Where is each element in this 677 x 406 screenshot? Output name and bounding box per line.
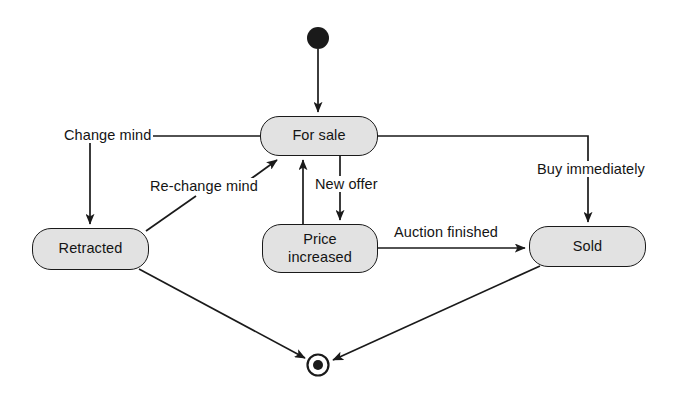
state-for-sale-label: For sale <box>292 127 345 145</box>
state-sold[interactable]: Sold <box>529 226 646 267</box>
transition-label-buy-immediately: Buy immediately <box>535 161 647 177</box>
state-retracted-label: Retracted <box>59 240 123 258</box>
state-price-increased[interactable]: Price increased <box>262 224 378 273</box>
transition-buy-immediately <box>378 136 588 222</box>
state-retracted[interactable]: Retracted <box>32 228 149 270</box>
diagram-connectors <box>0 0 677 406</box>
initial-state-node <box>307 27 329 49</box>
state-price-increased-label: Price increased <box>288 231 352 266</box>
transition-sold-to-final <box>333 266 540 360</box>
transition-label-change-mind: Change mind <box>62 127 153 143</box>
state-sold-label: Sold <box>573 238 602 256</box>
state-diagram-canvas: For sale Retracted Price increased Sold … <box>0 0 677 406</box>
final-state-dot <box>313 360 323 370</box>
transition-retracted-to-final <box>139 269 305 358</box>
transition-re-change-mind-lower <box>146 196 196 231</box>
transition-label-auction-finished: Auction finished <box>392 224 500 240</box>
transition-label-new-offer: New offer <box>313 176 380 192</box>
transition-label-re-change-mind: Re-change mind <box>148 178 260 194</box>
state-for-sale[interactable]: For sale <box>260 116 378 156</box>
